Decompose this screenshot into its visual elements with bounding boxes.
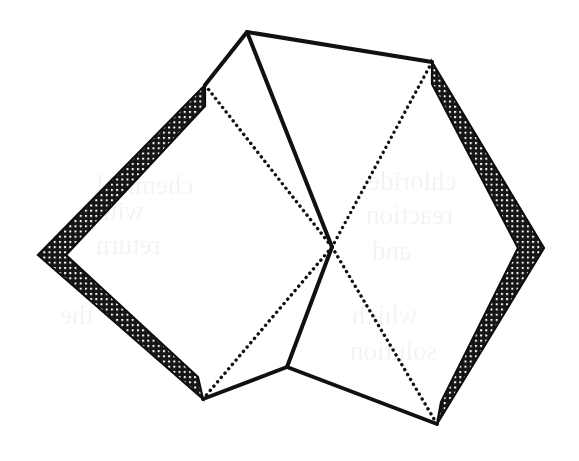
figure-canvas: chemicalwithreturnchloridereactionandthe… — [0, 0, 579, 461]
geometric-figure — [0, 0, 579, 461]
